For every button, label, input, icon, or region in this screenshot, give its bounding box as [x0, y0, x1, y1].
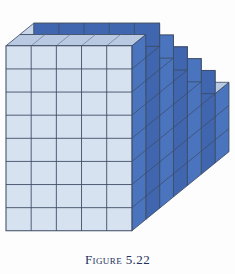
cube-side-face — [160, 35, 174, 208]
figure-caption-number: 5.22 — [126, 252, 150, 267]
cube-side-face — [215, 82, 229, 163]
figure-container: Figure 5.22 — [0, 0, 235, 274]
solid-group — [6, 23, 229, 231]
cube-staircase-illustration — [0, 0, 235, 250]
figure-caption: Figure 5.22 — [0, 252, 235, 268]
cube-top-face — [6, 35, 146, 46]
figure-caption-label: Figure — [85, 252, 122, 267]
